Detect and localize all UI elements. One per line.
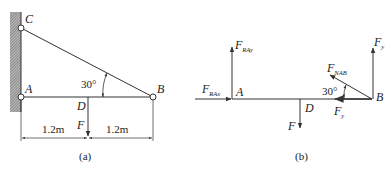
force-fnab-label: FNAB [326, 61, 347, 76]
figure-b: A D B 30° FRAy FRAx F FNAB Fy Fy (b) [195, 35, 384, 163]
label-d: D [76, 99, 86, 113]
label-a: A [24, 82, 33, 96]
label-b-fbd: B [376, 90, 384, 104]
pin-a [18, 94, 24, 100]
force-fy-horizontal-label: Fy [333, 104, 344, 119]
angle-arc-b [344, 85, 346, 98]
force-frax-label: FRAx [201, 82, 220, 97]
label-b: B [157, 82, 165, 96]
dim-label-1: 1.2m [42, 123, 65, 135]
dim-label-2: 1.2m [106, 123, 129, 135]
label-c: C [25, 12, 34, 26]
caption-b: (b) [295, 150, 308, 163]
caption-a: (a) [79, 150, 92, 163]
label-d-fbd: D [304, 101, 314, 115]
label-a-fbd: A [235, 85, 244, 99]
pin-b [150, 94, 156, 100]
pin-c [18, 25, 24, 31]
diagram-canvas: C A B D F 30° 1.2m 1.2m (a) A D B 30° FR… [0, 0, 390, 177]
angle-label-b: 30° [322, 85, 337, 97]
angle-label-a: 30° [81, 78, 96, 90]
force-f-label-b: F [287, 119, 296, 133]
angle-arc-a [103, 73, 107, 97]
force-fray-label: FRAy [234, 38, 253, 53]
label-f: F [76, 118, 85, 132]
figure-a: C A B D F 30° 1.2m 1.2m (a) [10, 12, 165, 163]
force-fy-vertical-label: Fy [373, 35, 384, 50]
